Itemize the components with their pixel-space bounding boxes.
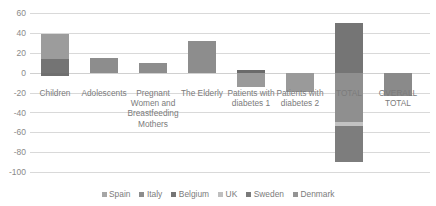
category-label-patients-diabetes-1: Patients with diabetes 1 — [223, 88, 279, 108]
bar-segment — [139, 63, 167, 73]
y-tick-label: -40 — [0, 109, 26, 118]
legend-swatch-icon — [293, 192, 298, 197]
plot-area: Children Adolescents Pregnant Women and … — [30, 13, 430, 172]
legend-label: Spain — [109, 190, 130, 198]
legend-label: Italy — [147, 190, 162, 198]
category-label-the-elderly: The Elderly — [177, 88, 227, 98]
legend-item-belgium[interactable]: Belgium — [171, 190, 209, 198]
category-label-overall-total: OVERALL TOTAL — [373, 88, 423, 108]
legend-item-sweden[interactable]: Sweden — [246, 190, 284, 198]
y-tick-label: 20 — [0, 49, 26, 58]
bar-segment — [335, 23, 363, 73]
legend-label: Denmark — [300, 190, 334, 198]
bar-segment — [41, 73, 69, 76]
legend-item-italy[interactable]: Italy — [139, 190, 162, 198]
chart-container: 60 40 20 0 -20 -40 -60 -80 -100 — [0, 0, 436, 206]
chart-legend: Spain Italy Belgium UK Sweden Denmark — [0, 190, 436, 198]
legend-swatch-icon — [102, 192, 107, 197]
bar-segment — [335, 126, 363, 162]
legend-swatch-icon — [218, 192, 223, 197]
bar-segment — [41, 34, 69, 59]
legend-item-uk[interactable]: UK — [218, 190, 237, 198]
legend-label: Belgium — [179, 190, 209, 198]
y-tick-label: -80 — [0, 148, 26, 157]
legend-swatch-icon — [139, 192, 144, 197]
legend-label: Sweden — [254, 190, 284, 198]
bar-segment — [90, 58, 118, 73]
legend-item-spain[interactable]: Spain — [102, 190, 131, 198]
legend-item-denmark[interactable]: Denmark — [293, 190, 334, 198]
legend-swatch-icon — [246, 192, 251, 197]
y-tick-label: -100 — [0, 168, 26, 177]
category-label-pregnant-women: Pregnant Women and Breastfeeding Mothers — [125, 88, 181, 129]
bar-segment — [188, 41, 216, 73]
y-tick-label: -20 — [0, 89, 26, 98]
y-axis: 60 40 20 0 -20 -40 -60 -80 -100 — [0, 13, 28, 172]
category-label-total: TOTAL — [324, 88, 374, 98]
bar-segment — [237, 73, 265, 87]
y-tick-label: -60 — [0, 128, 26, 137]
y-tick-label: 0 — [0, 69, 26, 78]
gridline-minus-100 — [30, 172, 430, 173]
category-label-children: Children — [30, 88, 80, 98]
y-tick-label: 60 — [0, 9, 26, 18]
legend-swatch-icon — [171, 192, 176, 197]
legend-label: UK — [226, 190, 238, 198]
bar-segment — [41, 59, 69, 73]
category-label-patients-diabetes-2: Patients with diabetes 2 — [272, 88, 328, 108]
y-tick-label: 40 — [0, 29, 26, 38]
